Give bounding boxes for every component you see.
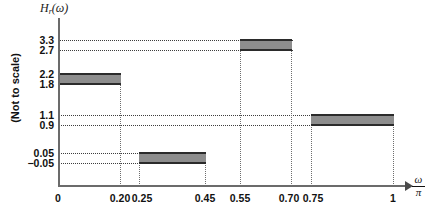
- x-tick-label: 0.55: [230, 192, 250, 204]
- x-tick-label: 0.70: [279, 192, 299, 204]
- x-tick-label: 1: [390, 192, 396, 204]
- x-axis-label-numerator: ω: [412, 174, 425, 185]
- x-tick-label: 0.25: [132, 192, 152, 204]
- x-tick-label: 0.20: [110, 192, 130, 204]
- x-tick-label: 0: [55, 192, 61, 204]
- x-tick-label: 0.75: [303, 192, 323, 204]
- x-axis-label: ω π: [412, 174, 425, 198]
- chart-figure: Hr(ω) (Not to scale) 3.3 2.7 2.2 1.8 1.1…: [0, 0, 431, 218]
- x-tick-label-group: 0 0.20 0.25 0.45 0.55 0.70 0.75 1: [0, 0, 431, 218]
- x-tick-label: 0.45: [195, 192, 215, 204]
- x-axis-label-denominator: π: [412, 187, 425, 198]
